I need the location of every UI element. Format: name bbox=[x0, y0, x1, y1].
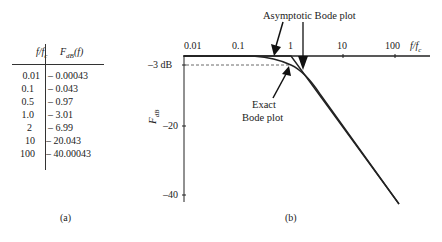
y-tick-label: –3 dB bbox=[148, 59, 172, 70]
x-tick-label: 0.1 bbox=[232, 40, 245, 51]
chart-caption: (b) bbox=[285, 212, 297, 223]
x-tick-label: 0.01 bbox=[184, 40, 202, 51]
annotation-exact-line1: Exact bbox=[252, 99, 276, 110]
exact-bode-curve bbox=[184, 56, 399, 204]
y-axis-label: FdB bbox=[146, 109, 161, 124]
x-tick-label: 1 bbox=[288, 40, 293, 51]
arrowhead-icon bbox=[282, 66, 291, 76]
x-tick-label: 100 bbox=[385, 40, 400, 51]
exact-arrow bbox=[273, 74, 286, 98]
x-tick-label: 10 bbox=[337, 40, 347, 51]
y-tick-label: –20 bbox=[163, 120, 178, 131]
arrowhead-icon bbox=[271, 44, 281, 56]
annotation-asymptotic: Asymptotic Bode plot bbox=[263, 10, 356, 21]
asymptotic-arrow-left bbox=[276, 22, 283, 46]
y-tick-label: –40 bbox=[163, 189, 178, 200]
x-axis-label: f/fc bbox=[410, 40, 421, 54]
bode-plot-canvas bbox=[0, 0, 442, 242]
asymptotic-bode-curve bbox=[184, 56, 399, 204]
annotation-exact-line2: Bode plot bbox=[242, 112, 283, 123]
